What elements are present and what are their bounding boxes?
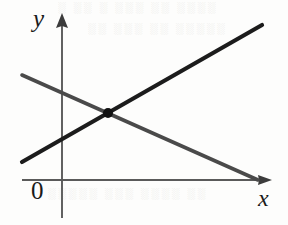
line-graph-figure: ░ ░░ ░ ░░░ ░░ ░░░░ ░░ ░░░ ░░ ░░░░░ ░░░░░…: [0, 0, 288, 225]
x-axis-arrowhead: [258, 175, 272, 185]
origin-label: 0: [31, 178, 44, 203]
x-axis-label: x: [258, 186, 269, 210]
y-axis-arrowhead: [56, 13, 68, 28]
series-group: [22, 25, 262, 180]
axes-group: [22, 13, 272, 218]
intersection-point: [103, 108, 113, 118]
y-axis-label: y: [33, 6, 44, 31]
increasing-line: [22, 25, 262, 162]
decreasing-line: [22, 75, 258, 180]
